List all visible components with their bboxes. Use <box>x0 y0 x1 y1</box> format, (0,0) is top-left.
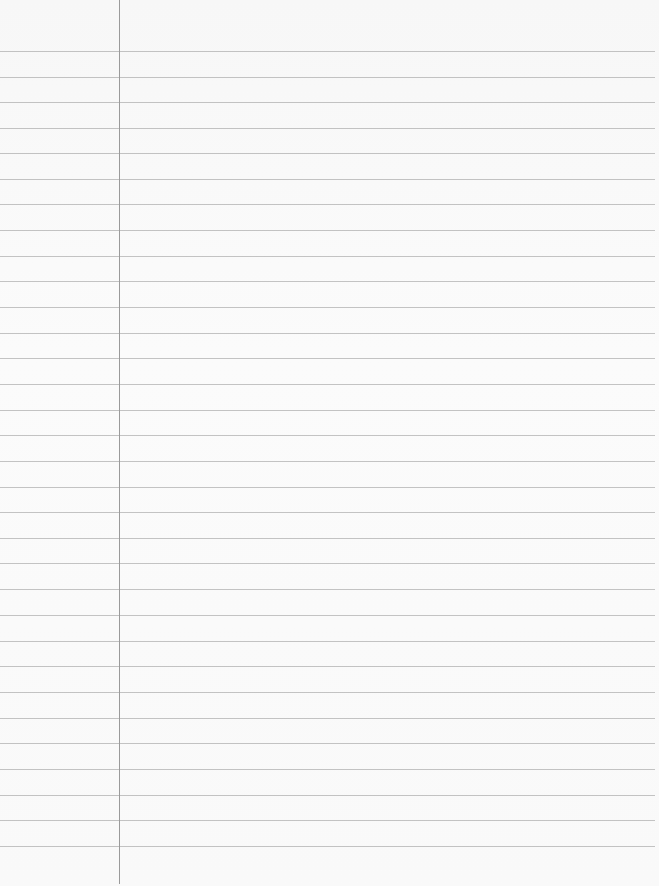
margin-line <box>119 0 120 884</box>
ruled-line <box>0 692 655 693</box>
ruled-line <box>0 384 655 385</box>
ruled-line <box>0 230 655 231</box>
ruled-line <box>0 461 655 462</box>
ruled-line <box>0 615 655 616</box>
ruled-line <box>0 153 655 154</box>
ruled-line <box>0 179 655 180</box>
ruled-line <box>0 512 655 513</box>
ruled-line <box>0 769 655 770</box>
ruled-line <box>0 795 655 796</box>
ruled-line <box>0 743 655 744</box>
ruled-line <box>0 204 655 205</box>
ruled-line <box>0 307 655 308</box>
ruled-line <box>0 641 655 642</box>
ruled-line <box>0 538 655 539</box>
ruled-line <box>0 410 655 411</box>
ruled-line <box>0 563 655 564</box>
ruled-line <box>0 333 655 334</box>
ruled-line <box>0 666 655 667</box>
ruled-line <box>0 846 655 847</box>
ruled-line <box>0 77 655 78</box>
ruled-line <box>0 358 655 359</box>
ruled-line <box>0 256 655 257</box>
ruled-line <box>0 102 655 103</box>
ruled-line <box>0 281 655 282</box>
ruled-line <box>0 589 655 590</box>
ruled-line <box>0 435 655 436</box>
ruled-line <box>0 128 655 129</box>
ruled-line <box>0 718 655 719</box>
ruled-line <box>0 820 655 821</box>
ruled-line <box>0 487 655 488</box>
lined-paper-sheet <box>0 0 659 886</box>
ruled-line <box>0 51 655 52</box>
